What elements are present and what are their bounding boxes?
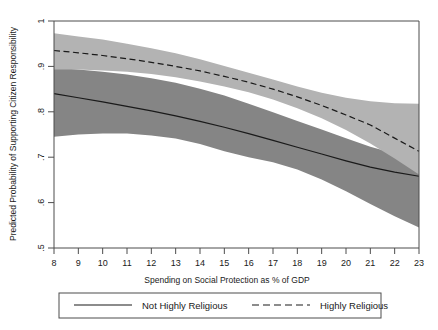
x-tick-label: 14: [195, 258, 205, 268]
y-tick-label: .5: [36, 244, 46, 252]
figure-container: .5.6.7.8.91 8910111213141516171819202122…: [0, 0, 438, 330]
x-tick-label: 21: [365, 258, 375, 268]
y-axis-title: Predicted Probability of Supporting Citi…: [8, 26, 18, 241]
x-tick-label: 17: [268, 258, 278, 268]
x-tick-label: 9: [76, 258, 81, 268]
x-tick-label: 16: [244, 258, 254, 268]
y-tick-label: .9: [36, 63, 46, 71]
x-tick-label: 13: [171, 258, 181, 268]
x-tick-label: 18: [292, 258, 302, 268]
x-tick-label: 15: [219, 258, 229, 268]
y-tick-label: .7: [36, 153, 46, 161]
x-tick-label: 11: [122, 258, 131, 268]
legend-label-not-highly-religious: Not Highly Religious: [142, 300, 228, 311]
x-tick-label: 12: [146, 258, 156, 268]
x-tick-label: 10: [98, 258, 108, 268]
y-tick-label: 1: [36, 18, 46, 23]
y-tick-label: .6: [36, 199, 46, 207]
x-tick-label: 22: [390, 258, 400, 268]
x-axis-title: Spending on Social Protection as % of GD…: [144, 275, 310, 285]
y-tick-label: .8: [36, 108, 46, 116]
legend-label-highly-religious: Highly Religious: [320, 300, 388, 311]
x-tick-label: 20: [341, 258, 351, 268]
x-tick-label: 8: [51, 258, 56, 268]
predicted-probability-chart: .5.6.7.8.91 8910111213141516171819202122…: [0, 0, 438, 330]
x-tick-label: 19: [317, 258, 327, 268]
x-tick-label: 23: [414, 258, 424, 268]
